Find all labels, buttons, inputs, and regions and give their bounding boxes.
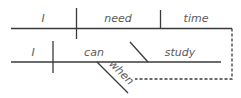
sub-complement-word: study [165,46,196,59]
main-object-word: time [184,12,209,25]
sub-verb-word: can [84,46,104,59]
main-verb-word: need [104,12,133,25]
diagram-lines: I need time I can study when [0,0,241,98]
sub-complement-divider [130,42,148,62]
sentence-diagram: I need time I can study when [0,0,241,98]
sub-subject-word: I [31,46,34,59]
main-subject-word: I [41,12,44,25]
